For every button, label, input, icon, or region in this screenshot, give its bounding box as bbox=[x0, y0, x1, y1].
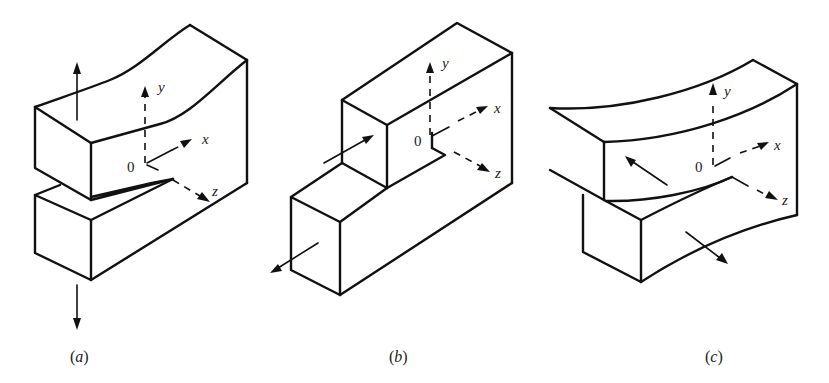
panel-a-lower-bottom-edge bbox=[91, 183, 247, 280]
panel-c-upper-left-bottom-edge bbox=[550, 170, 604, 200]
arrowhead-icon bbox=[73, 318, 81, 330]
panel-b-sliding-mode: y x z 0 (b) bbox=[270, 23, 512, 366]
panel-c-top-front-edge bbox=[604, 84, 797, 142]
panel-c-load-arrow-lower bbox=[686, 232, 728, 264]
y-axis-arrowhead-icon bbox=[426, 62, 434, 73]
z-axis-arrowhead-icon bbox=[477, 163, 490, 172]
arrowhead-icon bbox=[716, 253, 728, 264]
panel-b-lower-left-face bbox=[291, 197, 340, 295]
x-axis-arrowhead-icon bbox=[757, 142, 769, 150]
panel-b-lower-top-edge bbox=[340, 188, 387, 222]
panel-c-lower-bottom-edge bbox=[641, 215, 797, 282]
panel-a-caption: (a) bbox=[70, 348, 89, 366]
y-axis-arrowhead-icon bbox=[709, 83, 717, 95]
panel-b-origin-label: 0 bbox=[414, 133, 422, 149]
panel-b-coordinate-axes bbox=[426, 62, 490, 172]
panel-a-opening-mode: y x z 0 (a) bbox=[35, 25, 247, 366]
panel-b-load-arrow-upper bbox=[324, 135, 374, 163]
panel-c-z-label: z bbox=[781, 192, 788, 208]
panel-c-x-label: x bbox=[773, 137, 781, 153]
arrowhead-icon bbox=[362, 135, 374, 144]
panel-c-load-arrow-upper bbox=[625, 156, 667, 185]
z-axis-arrowhead-icon bbox=[765, 191, 778, 200]
panel-a-lower-left-face bbox=[35, 195, 91, 280]
panel-b-lower-bottom-edge bbox=[340, 183, 512, 295]
y-axis-arrowhead-icon bbox=[141, 86, 149, 97]
arrowhead-icon bbox=[270, 264, 282, 273]
fracture-modes-diagram: y x z 0 (a) bbox=[0, 0, 829, 383]
arrowhead-icon bbox=[625, 156, 636, 167]
panel-c-y-label: y bbox=[722, 83, 731, 99]
panel-b-z-label: z bbox=[494, 165, 501, 181]
panel-a-lower-top-edge bbox=[91, 179, 173, 220]
panel-a-x-label: x bbox=[201, 131, 209, 147]
panel-a-upper-block bbox=[35, 25, 247, 200]
panel-b-upper-block bbox=[342, 23, 512, 188]
x-axis-arrowhead-icon bbox=[180, 139, 192, 148]
panel-a-upper-left-face bbox=[35, 107, 91, 200]
panel-c-tearing-mode: y x z 0 (c) bbox=[550, 60, 797, 366]
z-axis-arrowhead-icon bbox=[197, 192, 210, 202]
panel-b-lower-back-edge bbox=[291, 163, 342, 197]
panel-a-origin-label: 0 bbox=[127, 159, 135, 175]
panel-c-upper-bottom-edge bbox=[606, 177, 732, 201]
arrowhead-icon bbox=[73, 62, 81, 74]
panel-a-lower-back-edge bbox=[35, 185, 60, 195]
panel-c-top-back-edge bbox=[550, 60, 753, 109]
panel-c-origin-label: 0 bbox=[695, 159, 703, 175]
x-axis-arrowhead-icon bbox=[476, 106, 488, 114]
panel-a-top-front-edge bbox=[91, 60, 247, 143]
panel-b-step-left-edge bbox=[342, 163, 387, 188]
panel-c-lower-block bbox=[583, 177, 797, 282]
panel-a-crack-wedge bbox=[91, 179, 173, 200]
panel-b-x-label: x bbox=[493, 100, 501, 116]
panel-a-load-arrow-down bbox=[73, 285, 81, 330]
panel-b-lower-block bbox=[291, 163, 512, 295]
panel-b-caption: (b) bbox=[389, 348, 408, 366]
panel-a-y-label: y bbox=[156, 79, 165, 95]
panel-a-top-back-edge bbox=[35, 25, 190, 107]
panel-a-z-label: z bbox=[211, 183, 218, 199]
panel-c-caption: (c) bbox=[705, 348, 723, 366]
panel-b-load-arrow-lower bbox=[270, 243, 318, 273]
panel-b-y-label: y bbox=[440, 55, 449, 71]
panel-b-top-back-edges bbox=[342, 23, 512, 100]
panel-c-upper-left-top-edge bbox=[550, 108, 604, 142]
panel-c-top-right-edge bbox=[753, 60, 797, 84]
panel-c-lower-left-face bbox=[583, 195, 641, 282]
panel-a-top-right-edge bbox=[190, 25, 247, 60]
panel-b-ledge bbox=[387, 148, 445, 188]
